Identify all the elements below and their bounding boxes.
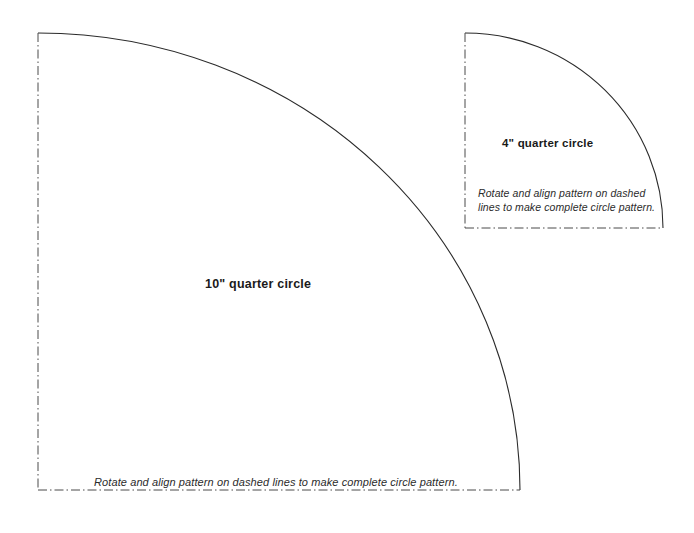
quarter-circle-pattern-canvas — [0, 0, 694, 533]
large-quarter-circle-instruction-note: Rotate and align pattern on dashed lines… — [94, 476, 458, 488]
small-quarter-circle-label: 4" quarter circle — [502, 137, 593, 149]
large-quarter-circle-arc — [38, 33, 520, 490]
large-quarter-circle-label: 10" quarter circle — [205, 277, 311, 291]
small-quarter-circle-instruction-note: Rotate and align pattern on dashed lines… — [478, 186, 658, 214]
large-quarter-circle-group — [38, 33, 520, 490]
small-note-line-2: lines to make complete circle pattern. — [478, 200, 658, 214]
small-note-line-1: Rotate and align pattern on dashed — [478, 186, 658, 200]
pattern-page: 10" quarter circle Rotate and align patt… — [0, 0, 694, 533]
